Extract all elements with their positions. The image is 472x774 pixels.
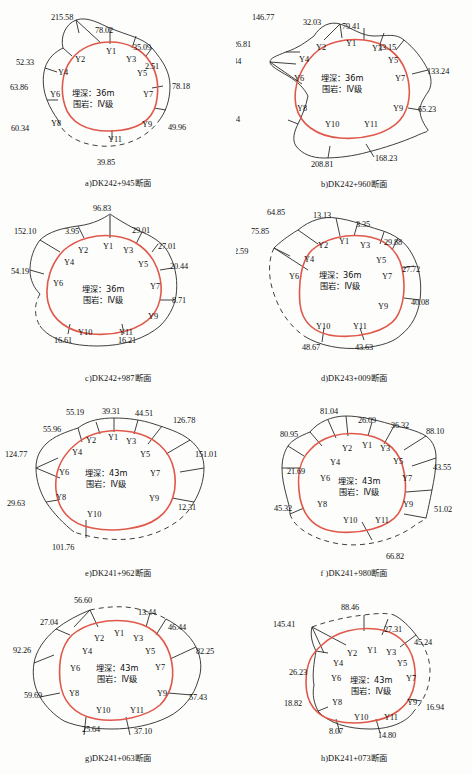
point-c-Y11: Y11 bbox=[119, 328, 133, 337]
panel-b: 146.77 32.03 79.41 13.15 26.81 282.84 13… bbox=[236, 0, 472, 194]
value-c-Y6: 54.19 bbox=[11, 267, 29, 276]
point-a-Y6: Y6 bbox=[50, 90, 60, 99]
value-c-Y1: 96.83 bbox=[93, 204, 111, 213]
point-h-Y5: Y5 bbox=[397, 659, 407, 668]
point-h-Y4: Y4 bbox=[333, 659, 343, 668]
panel-d: 64.85 13.13 3.35 75.85 29.88 172.59 27.7… bbox=[236, 194, 472, 388]
point-g-Y11: Y11 bbox=[130, 706, 144, 715]
panel-g-depth: 埋深：43m bbox=[96, 663, 138, 674]
point-b-Y9: Y9 bbox=[393, 104, 403, 113]
panel-e: 55.19 39.31 44.51 55.96 126.78 124.77 15… bbox=[0, 388, 236, 583]
value-a-Y6: 63.86 bbox=[10, 83, 28, 92]
point-a-Y7: Y7 bbox=[143, 90, 153, 99]
point-e-Y1: Y1 bbox=[108, 433, 118, 442]
point-d-Y7: Y7 bbox=[382, 272, 392, 281]
tunnel-section-figure-grid: 215.58 78.02 35.09 2.51 52.33 63.86 78.1… bbox=[0, 0, 472, 774]
panel-b-caption: b)DK242+960断面 bbox=[236, 177, 472, 189]
value-c-Y7: 20.44 bbox=[170, 262, 188, 271]
point-h-Y10: Y10 bbox=[354, 713, 368, 722]
value-b-Y7: 133.24 bbox=[427, 67, 449, 76]
value-b-Y6: 282.84 bbox=[236, 57, 241, 66]
panel-h-annotation: 埋深：43m 围岩：Ⅳ级 bbox=[350, 675, 392, 696]
panel-d-depth: 埋深：36m bbox=[319, 270, 361, 281]
panel-f-caption: f )DK241+980断面 bbox=[236, 566, 472, 578]
panel-f-depth: 埋深：43m bbox=[338, 476, 380, 487]
panel-d-annotation: 埋深：36m 围岩：Ⅳ级 bbox=[319, 270, 361, 291]
point-h-Y7: Y7 bbox=[406, 674, 416, 683]
value-f-Y4: 80.95 bbox=[280, 430, 298, 439]
value-c-Y11: 16.21 bbox=[118, 336, 136, 345]
value-g-Y10: 25.64 bbox=[82, 725, 100, 734]
value-e-Y7: 151.01 bbox=[195, 450, 217, 459]
value-d-Y4: 75.85 bbox=[251, 227, 269, 236]
point-c-Y4: Y4 bbox=[64, 258, 74, 267]
value-a-Y3: 35.09 bbox=[133, 43, 151, 52]
point-c-Y6: Y6 bbox=[53, 279, 63, 288]
point-g-Y2: Y2 bbox=[94, 634, 104, 643]
panel-e-annotation: 埋深：43m 围岩：Ⅳ级 bbox=[85, 468, 127, 489]
point-b-Y2: Y2 bbox=[316, 43, 326, 52]
panel-f: 81.04 26.09 36.32 80.95 88.10 21.69 43.5… bbox=[236, 388, 472, 583]
panel-a: 215.58 78.02 35.09 2.51 52.33 63.86 78.1… bbox=[0, 0, 236, 194]
value-a-Y2: 215.58 bbox=[51, 13, 73, 22]
value-g-Y11: 37.10 bbox=[134, 727, 152, 736]
value-e-Y8: 29.63 bbox=[7, 499, 25, 508]
point-a-Y5: Y5 bbox=[137, 69, 147, 78]
point-e-Y8: Y8 bbox=[56, 493, 66, 502]
point-a-Y3: Y3 bbox=[126, 55, 136, 64]
point-f-Y5: Y5 bbox=[393, 457, 403, 466]
point-d-Y10: Y10 bbox=[316, 322, 330, 331]
point-g-Y1: Y1 bbox=[114, 629, 124, 638]
value-h-Y9: 16.94 bbox=[426, 703, 444, 712]
point-b-Y3: Y3 bbox=[372, 44, 382, 53]
point-g-Y7: Y7 bbox=[155, 663, 165, 672]
value-c-Y10: 16.61 bbox=[54, 336, 72, 345]
value-g-Y4: 92.26 bbox=[13, 646, 31, 655]
panel-a-depth: 埋深：36m bbox=[72, 88, 114, 99]
value-a-Y4: 52.33 bbox=[16, 58, 34, 67]
value-f-Y2: 81.04 bbox=[320, 407, 338, 416]
point-h-Y8: Y8 bbox=[332, 698, 342, 707]
value-f-Y8: 45.32 bbox=[274, 504, 292, 513]
value-g-Y5: 46.44 bbox=[168, 623, 186, 632]
panel-b-rock: 围岩：Ⅳ级 bbox=[321, 84, 363, 95]
point-c-Y5: Y5 bbox=[138, 260, 148, 269]
point-f-Y10: Y10 bbox=[343, 516, 357, 525]
value-f-Y5: 88.10 bbox=[426, 427, 444, 436]
point-d-Y11: Y11 bbox=[353, 322, 367, 331]
panel-e-depth: 埋深：43m bbox=[85, 468, 127, 479]
value-c-Y4: 152.10 bbox=[14, 227, 36, 236]
point-a-Y4: Y4 bbox=[58, 68, 68, 77]
panel-g-annotation: 埋深：43m 围岩：Ⅳ级 bbox=[96, 663, 138, 684]
point-a-Y8: Y8 bbox=[51, 119, 61, 128]
point-d-Y4: Y4 bbox=[304, 255, 314, 264]
value-d-Y2: 64.85 bbox=[267, 208, 285, 217]
point-h-Y9: Y9 bbox=[407, 698, 417, 707]
value-h-Y1: 88.46 bbox=[341, 603, 359, 612]
point-d-Y5: Y5 bbox=[376, 256, 386, 265]
point-f-Y1: Y1 bbox=[362, 441, 372, 450]
value-a-Y1: 78.02 bbox=[95, 26, 113, 35]
point-a-Y11: Y11 bbox=[108, 135, 122, 144]
panel-c-depth: 埋深：36m bbox=[82, 284, 124, 295]
value-d-Y5: 29.88 bbox=[384, 238, 402, 247]
value-b-Y9: 65.23 bbox=[418, 105, 436, 114]
panel-c: 96.83 3.95 29.01 152.10 27.01 54.19 20.4… bbox=[0, 194, 236, 388]
value-e-Y10: 101.76 bbox=[52, 543, 74, 552]
value-b-Y8: 22.64 bbox=[236, 115, 240, 124]
value-d-Y3: 3.35 bbox=[356, 220, 370, 229]
value-b-Y4: 26.81 bbox=[236, 40, 251, 49]
point-g-Y4: Y4 bbox=[82, 647, 92, 656]
point-c-Y9: Y9 bbox=[148, 312, 158, 321]
point-d-Y2: Y2 bbox=[318, 241, 328, 250]
point-f-Y2: Y2 bbox=[342, 444, 352, 453]
value-h-Y2: 145.41 bbox=[273, 620, 295, 629]
point-e-Y5: Y5 bbox=[140, 450, 150, 459]
point-e-Y2: Y2 bbox=[86, 436, 96, 445]
value-f-Y1: 26.09 bbox=[358, 416, 376, 425]
panel-g: 56.60 27.04 13.44 92.26 46.44 82.25 59.6… bbox=[0, 583, 236, 774]
point-e-Y10: Y10 bbox=[87, 510, 101, 519]
point-g-Y8: Y8 bbox=[69, 689, 79, 698]
value-a-Y8: 60.34 bbox=[11, 124, 29, 133]
value-f-Y3: 36.32 bbox=[391, 421, 409, 430]
